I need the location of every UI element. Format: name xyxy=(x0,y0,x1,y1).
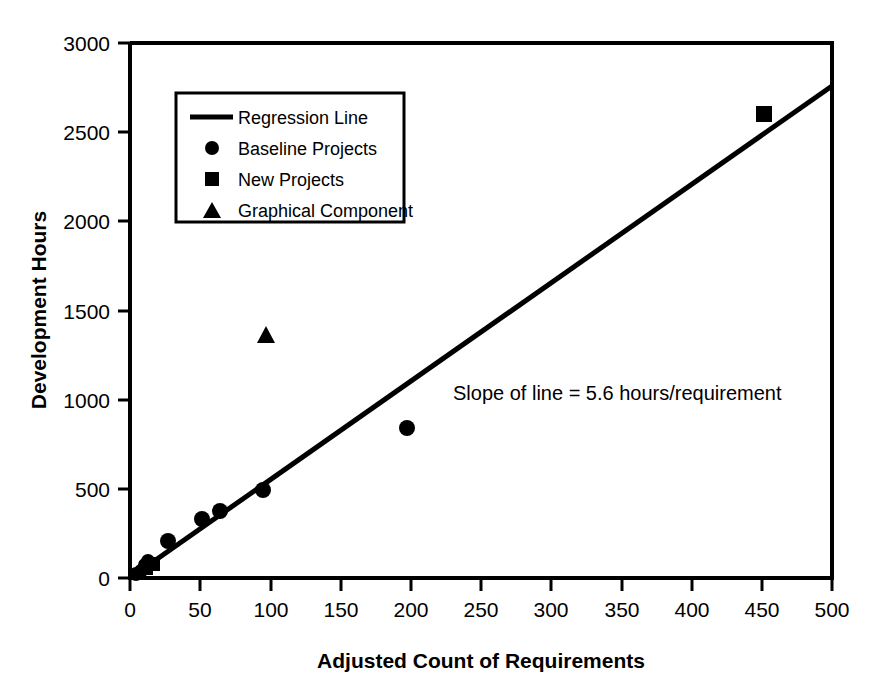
legend: Regression Line Baseline Projects New Pr… xyxy=(176,93,413,222)
x-tick-label: 50 xyxy=(188,598,211,621)
data-point-circle xyxy=(399,420,415,436)
x-tick-label: 100 xyxy=(253,598,288,621)
x-tick-label: 500 xyxy=(814,598,849,621)
slope-annotation: Slope of line = 5.6 hours/requirement xyxy=(453,382,782,404)
data-point-circle xyxy=(160,533,176,549)
chart-figure: 3000 2500 2000 1500 1000 500 0 0 50 1 xyxy=(0,0,883,695)
data-point-square xyxy=(756,106,772,122)
y-tick-label: 2000 xyxy=(63,210,110,233)
x-axis-title: Adjusted Count of Requirements xyxy=(317,649,645,672)
data-point-circle xyxy=(255,482,271,498)
y-tick-label: 1500 xyxy=(63,300,110,323)
x-tick-label: 350 xyxy=(604,598,639,621)
y-tick-label: 1000 xyxy=(63,389,110,412)
data-point-circle xyxy=(194,511,210,527)
legend-label-new-projects: New Projects xyxy=(238,170,344,190)
x-tick-label: 450 xyxy=(744,598,779,621)
x-tick-label: 200 xyxy=(393,598,428,621)
data-point-square xyxy=(146,557,160,571)
y-tick-label: 500 xyxy=(75,478,110,501)
y-axis-title: Development Hours xyxy=(27,211,50,409)
y-tick-label: 3000 xyxy=(63,32,110,55)
y-tick-label: 0 xyxy=(98,567,110,590)
legend-square-icon xyxy=(205,172,219,186)
x-tick-label: 150 xyxy=(323,598,358,621)
x-tick-label: 400 xyxy=(674,598,709,621)
plot-background xyxy=(0,0,883,695)
x-tick-label: 300 xyxy=(533,598,568,621)
y-tick-label: 2500 xyxy=(63,121,110,144)
legend-label-baseline-projects: Baseline Projects xyxy=(238,139,377,159)
x-tick-label: 0 xyxy=(124,598,136,621)
data-point-circle xyxy=(212,503,228,519)
scatter-plot: 3000 2500 2000 1500 1000 500 0 0 50 1 xyxy=(0,0,883,695)
legend-label-graphical-component: Graphical Component xyxy=(238,201,413,221)
legend-circle-icon xyxy=(205,141,219,155)
x-tick-label: 250 xyxy=(463,598,498,621)
legend-label-regression-line: Regression Line xyxy=(238,108,368,128)
